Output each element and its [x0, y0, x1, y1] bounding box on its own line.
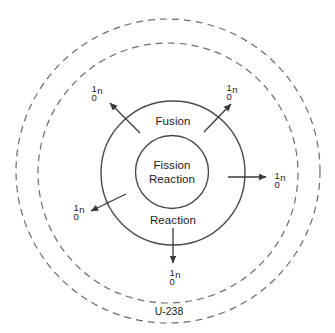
- u238-material-label: U-238: [152, 305, 187, 317]
- neutron-symbol: n: [280, 173, 285, 183]
- neutron-label-bottom: 1 0 n: [169, 268, 180, 286]
- neutron-atomic-number: 0: [91, 93, 96, 102]
- neutron-atomic-number: 0: [73, 212, 78, 221]
- neutron-arrow-bottom-left: [91, 194, 126, 211]
- neutron-symbol: n: [79, 205, 84, 215]
- neutron-numbers: 1 0: [169, 268, 174, 286]
- fusion-label: Fusion: [155, 114, 190, 128]
- neutron-label-top-left: 1 0 n: [91, 84, 102, 102]
- neutron-symbol: n: [232, 85, 237, 95]
- reaction-label: Reaction: [150, 213, 196, 227]
- neutron-symbol: n: [175, 270, 180, 280]
- neutron-symbol: n: [97, 86, 102, 96]
- neutron-atomic-number: 0: [274, 180, 279, 189]
- neutron-arrow-top-left: [110, 103, 140, 133]
- neutron-numbers: 1 0: [226, 83, 231, 101]
- neutron-label-top-right: 1 0 n: [226, 83, 237, 101]
- fission-reaction-diagram: Fusion Fission Reaction Reaction 1 0 n 1…: [0, 0, 335, 333]
- neutron-atomic-number: 0: [226, 92, 231, 101]
- neutron-arrow-top-right: [204, 104, 231, 132]
- fission-core-line1: Fission: [153, 159, 190, 171]
- u238-label-text: U-238: [155, 305, 184, 317]
- reaction-label-text: Reaction: [150, 214, 196, 226]
- neutron-label-bottom-left: 1 0 n: [73, 203, 84, 221]
- neutron-numbers: 1 0: [274, 171, 279, 189]
- neutron-numbers: 1 0: [91, 84, 96, 102]
- fusion-label-text: Fusion: [155, 115, 190, 127]
- neutron-numbers: 1 0: [73, 203, 78, 221]
- neutron-label-right: 1 0 n: [274, 171, 285, 189]
- fission-core-line2: Reaction: [149, 173, 195, 185]
- neutron-atomic-number: 0: [169, 277, 174, 286]
- fission-core-label: Fission Reaction: [149, 158, 195, 186]
